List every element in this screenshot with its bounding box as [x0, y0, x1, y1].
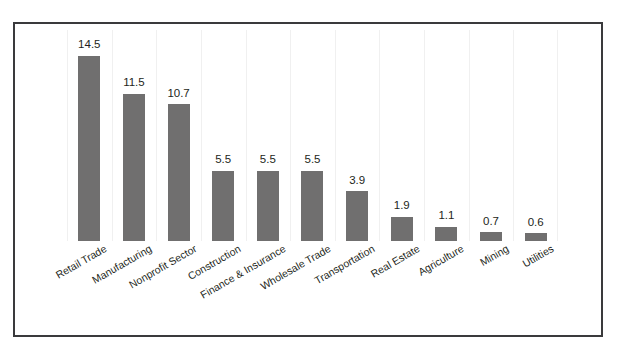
- bar-value-label: 0.7: [483, 216, 499, 228]
- chart-figure: 14.511.510.75.55.55.53.91.91.10.70.6 Ret…: [13, 22, 603, 337]
- bar[interactable]: [480, 232, 502, 241]
- bar[interactable]: [391, 217, 413, 241]
- bar-value-label: 5.5: [215, 154, 231, 166]
- bar-value-label: 14.5: [78, 39, 100, 51]
- category-label-text: Real Estate: [369, 243, 422, 280]
- category-label-text: Mining: [478, 243, 511, 268]
- bar[interactable]: [212, 171, 234, 241]
- bar-group[interactable]: 10.7: [156, 30, 201, 241]
- bar-group[interactable]: 1.1: [424, 30, 469, 241]
- category-axis-labels: Retail TradeManufacturingNonprofit Secto…: [67, 243, 558, 335]
- bar-group[interactable]: 5.5: [201, 30, 246, 241]
- bars-layer: 14.511.510.75.55.55.53.91.91.10.70.6: [67, 30, 558, 241]
- bar-value-label: 1.9: [394, 200, 410, 212]
- bar-group[interactable]: 5.5: [290, 30, 335, 241]
- bar-group[interactable]: 11.5: [112, 30, 157, 241]
- plot-area: 14.511.510.75.55.55.53.91.91.10.70.6: [67, 30, 558, 243]
- bar[interactable]: [435, 227, 457, 241]
- bar[interactable]: [257, 171, 279, 241]
- category-label-text: Utilities: [520, 243, 555, 270]
- bar-group[interactable]: 1.9: [379, 30, 424, 241]
- bar-value-label: 11.5: [123, 77, 145, 89]
- bar-group[interactable]: 14.5: [67, 30, 112, 241]
- bar[interactable]: [525, 233, 547, 241]
- bar-group[interactable]: 3.9: [335, 30, 380, 241]
- bar-value-label: 0.6: [528, 217, 544, 229]
- bar-group[interactable]: 0.7: [469, 30, 514, 241]
- bar-value-label: 3.9: [349, 175, 365, 187]
- bar[interactable]: [301, 171, 323, 241]
- bar-group[interactable]: 5.5: [246, 30, 291, 241]
- bar-value-label: 5.5: [260, 154, 276, 166]
- category-label-text: Agriculture: [417, 243, 466, 278]
- bar-value-label: 1.1: [438, 210, 454, 222]
- bar-group[interactable]: 0.6: [513, 30, 558, 241]
- bar[interactable]: [78, 56, 100, 241]
- bar[interactable]: [168, 104, 190, 241]
- bar[interactable]: [123, 94, 145, 241]
- bar[interactable]: [346, 191, 368, 241]
- bar-value-label: 5.5: [304, 154, 320, 166]
- bar-value-label: 10.7: [167, 88, 189, 100]
